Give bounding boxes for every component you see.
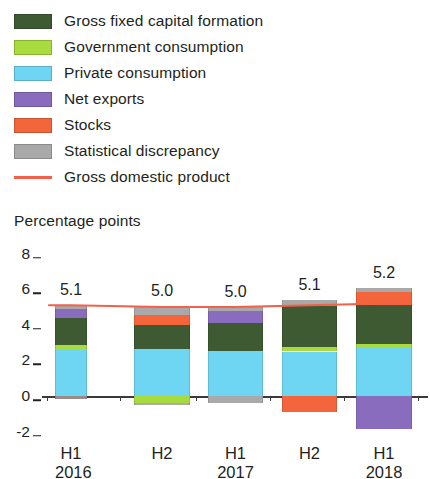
- legend-item[interactable]: Net exports: [14, 86, 424, 112]
- legend-item-label: Stocks: [64, 117, 111, 133]
- x-axis-tick-mark: [418, 396, 419, 401]
- legend-swatch-icon: [14, 40, 52, 55]
- x-axis-label: H12018: [356, 444, 412, 479]
- y-axis-tick-label: 4: [0, 316, 30, 334]
- legend-item[interactable]: Government consumption: [14, 34, 424, 60]
- y-axis-title: Percentage points: [14, 212, 141, 230]
- y-axis-tick-mark: [33, 399, 41, 401]
- bar-segment[interactable]: [356, 292, 412, 305]
- y-axis-tick-mark: [33, 257, 41, 259]
- x-axis-period-label: H1: [356, 444, 412, 463]
- x-axis-tick-mark: [270, 396, 271, 401]
- bar-segment[interactable]: [208, 307, 263, 311]
- bar-segment[interactable]: [282, 306, 337, 346]
- x-axis-tick-mark: [120, 396, 121, 401]
- x-axis-period-label: H1: [55, 444, 87, 463]
- y-axis-tick-mark: [33, 364, 41, 366]
- bar-segment[interactable]: [208, 396, 263, 403]
- bar-column[interactable]: 5.0: [208, 240, 263, 440]
- x-axis-label: H12016: [55, 444, 87, 479]
- bar-segment[interactable]: [282, 300, 337, 306]
- y-axis-tick-mark: [33, 328, 41, 330]
- legend-item-label: Statistical discrepancy: [64, 143, 220, 159]
- x-axis-year-label: 2017: [208, 463, 263, 479]
- legend-swatch-icon: [14, 66, 52, 81]
- bar-segment[interactable]: [55, 396, 87, 399]
- x-axis-period-label: H2: [134, 444, 190, 463]
- x-axis-tick-mark: [47, 396, 48, 401]
- x-axis-tick-mark: [196, 396, 197, 401]
- bar-segment[interactable]: [356, 344, 412, 348]
- legend-item[interactable]: Stocks: [14, 112, 424, 138]
- x-axis-tick-mark: [344, 396, 345, 401]
- x-axis-period-label: H2: [282, 444, 337, 463]
- legend-item[interactable]: Gross domestic product: [14, 164, 424, 190]
- bar-segment[interactable]: [134, 325, 190, 349]
- legend-item[interactable]: Private consumption: [14, 60, 424, 86]
- bar-column[interactable]: 5.1: [55, 240, 87, 440]
- bar-segment[interactable]: [356, 305, 412, 344]
- legend-item-label: Net exports: [64, 91, 144, 107]
- y-axis-tick-mark: [33, 435, 41, 437]
- bar-value-label: 5.0: [134, 282, 190, 300]
- bar-segment[interactable]: [134, 306, 190, 315]
- x-axis-period-label: H1: [208, 444, 263, 463]
- y-axis-tick-mark: [33, 292, 41, 294]
- y-axis-tick-label: -2: [0, 423, 30, 441]
- x-axis-label: H2: [282, 444, 337, 463]
- bar-column[interactable]: 5.2: [356, 240, 412, 440]
- bar-segment[interactable]: [55, 345, 87, 349]
- bar-segment[interactable]: [282, 352, 337, 397]
- bar-column[interactable]: 5.0: [134, 240, 190, 440]
- legend-swatch-icon: [14, 14, 52, 29]
- legend-item-label: Gross domestic product: [64, 169, 230, 185]
- legend-line-glyph: [14, 176, 52, 179]
- bar-segment[interactable]: [134, 315, 190, 325]
- x-axis-labels: H12016H2H12017H2H12018: [0, 440, 430, 479]
- bar-segment[interactable]: [55, 349, 87, 396]
- legend-swatch-icon: [14, 92, 52, 107]
- bar-segment[interactable]: [55, 305, 87, 309]
- bar-segment[interactable]: [282, 396, 337, 412]
- legend-item-label: Private consumption: [64, 65, 206, 81]
- legend-item[interactable]: Statistical discrepancy: [14, 138, 424, 164]
- legend-swatch-icon: [14, 144, 52, 159]
- bar-segment[interactable]: [208, 323, 263, 351]
- y-axis-tick-label: 6: [0, 280, 30, 298]
- bar-segment[interactable]: [208, 311, 263, 323]
- legend-item-label: Gross fixed capital formation: [64, 13, 263, 29]
- bar-value-label: 5.1: [282, 276, 337, 294]
- legend-item[interactable]: Gross fixed capital formation: [14, 8, 424, 34]
- legend-swatch-icon: [14, 118, 52, 133]
- x-axis-label: H2: [134, 444, 190, 463]
- legend-line-icon: [14, 170, 52, 185]
- x-axis-year-label: 2018: [356, 463, 412, 479]
- bar-segment[interactable]: [134, 403, 190, 405]
- bar-segment[interactable]: [55, 318, 87, 346]
- bar-segment[interactable]: [356, 288, 412, 292]
- bar-value-label: 5.1: [55, 281, 87, 299]
- plot-area: 86420-2 5.15.05.05.15.2: [0, 240, 430, 440]
- bar-segment[interactable]: [282, 347, 337, 352]
- x-axis-label: H12017: [208, 444, 263, 479]
- bar-column[interactable]: 5.1: [282, 240, 337, 440]
- bar-value-label: 5.0: [208, 283, 263, 301]
- bar-segment[interactable]: [55, 309, 87, 318]
- chart-legend: Gross fixed capital formationGovernment …: [14, 8, 424, 190]
- bar-segment[interactable]: [356, 396, 412, 429]
- bar-value-label: 5.2: [356, 264, 412, 282]
- bar-segment[interactable]: [208, 351, 263, 396]
- legend-item-label: Government consumption: [64, 39, 244, 55]
- y-axis-tick-label: 2: [0, 351, 30, 369]
- bar-segment[interactable]: [134, 349, 190, 396]
- y-axis-tick-label: 8: [0, 245, 30, 263]
- bar-segment[interactable]: [356, 348, 412, 396]
- y-axis-tick-label: 0: [0, 387, 30, 405]
- x-axis-year-label: 2016: [55, 463, 87, 479]
